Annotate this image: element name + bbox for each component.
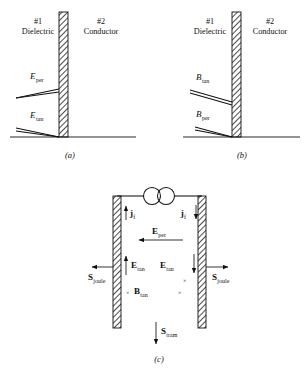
conductor-wall-a	[59, 12, 68, 137]
b-into-page-marker-2-c: ×	[178, 290, 181, 296]
conductor-wall-left-c	[113, 196, 121, 328]
region1-name-b: Dielectric	[194, 27, 227, 36]
region1-name-a: Dielectric	[22, 27, 55, 36]
region2-number-b: #2	[266, 17, 274, 26]
caption-a: (a)	[65, 150, 75, 160]
region2-number-a: #2	[97, 17, 105, 26]
conductor-wall-b	[232, 12, 241, 137]
region1-number-b: #1	[206, 17, 214, 26]
caption-c: (c)	[154, 354, 164, 364]
conductor-wall-right-c	[198, 196, 206, 328]
region2-name-a: Conductor	[84, 27, 119, 36]
b-into-page-marker-1-c: ×	[126, 290, 129, 296]
b-into-page-marker-3-c: ×	[183, 278, 186, 284]
region1-number-a: #1	[34, 17, 42, 26]
region2-name-b: Conductor	[253, 27, 288, 36]
physics-figure: #1 Dielectric #2 Conductor Eper Etan (a)…	[0, 0, 305, 369]
caption-b: (b)	[237, 150, 247, 160]
